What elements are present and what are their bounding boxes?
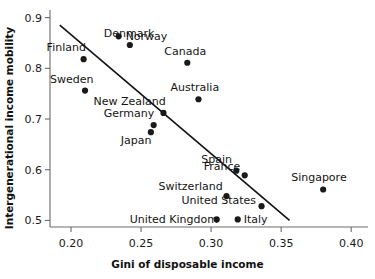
data-point-label: Finland [47, 41, 86, 54]
x-axis-title: Gini of disposable income [111, 258, 263, 270]
data-point[interactable] [235, 216, 241, 222]
y-axis-title: Intergenerational income mobility [3, 27, 15, 230]
data-point-label: Sweden [50, 73, 93, 86]
data-point[interactable] [320, 186, 326, 192]
y-tick-label: 0.5 [25, 214, 43, 227]
data-point-label: Germany [104, 107, 155, 120]
x-tick-label: 0.25 [129, 237, 154, 250]
x-axis: 0.200.250.300.350.40 [50, 227, 368, 250]
x-tick-label: 0.30 [199, 237, 224, 250]
data-point-label: Singapore [291, 171, 347, 184]
scatter-chart: 0.50.60.70.80.9 0.200.250.300.350.40 Den… [0, 0, 375, 279]
chart-canvas: 0.50.60.70.80.9 0.200.250.300.350.40 Den… [0, 0, 375, 279]
data-point-label: United States [182, 194, 257, 207]
data-point-label: New Zealand [93, 95, 165, 108]
y-tick-label: 0.7 [25, 113, 43, 126]
data-point[interactable] [151, 122, 157, 128]
data-point-label: Australia [170, 81, 219, 94]
x-tick-label: 0.20 [59, 237, 84, 250]
x-tick-label: 0.40 [339, 237, 364, 250]
y-tick-label: 0.8 [25, 62, 43, 75]
data-point[interactable] [242, 172, 248, 178]
x-axis-ticks: 0.200.250.300.350.40 [59, 227, 364, 250]
data-point[interactable] [258, 203, 264, 209]
data-point-label: Norway [126, 30, 168, 43]
data-point-label: France [204, 160, 241, 173]
data-point[interactable] [81, 56, 87, 62]
data-point[interactable] [184, 60, 190, 66]
x-tick-label: 0.35 [269, 237, 294, 250]
data-point-label: Switzerland [159, 180, 223, 193]
data-point-label: Japan [120, 134, 152, 147]
data-point-label: Canada [164, 45, 206, 58]
data-point[interactable] [160, 110, 166, 116]
data-point-label: Italy [244, 213, 268, 226]
y-tick-label: 0.9 [25, 12, 43, 25]
data-point[interactable] [82, 88, 88, 94]
data-point-labels: DenmarkNorwayFinlandCanadaSwedenAustrali… [47, 27, 347, 226]
data-point[interactable] [195, 96, 201, 102]
data-point-label: United Kingdom [130, 213, 218, 226]
y-tick-label: 0.6 [25, 164, 43, 177]
